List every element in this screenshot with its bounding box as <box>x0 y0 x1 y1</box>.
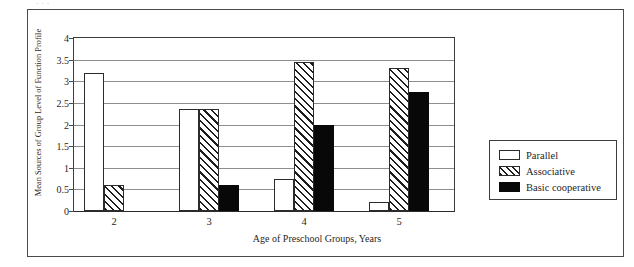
bar-5-basic-cooperative <box>409 92 429 211</box>
figure-container: · · · Mean Sources of Group Level of Fun… <box>0 0 634 267</box>
legend-swatch-parallel-icon <box>499 150 520 160</box>
legend-swatch-basic-cooperative-icon <box>499 182 520 192</box>
y-tick-label: 2.5 <box>57 97 70 108</box>
y-tick-label: 2 <box>64 119 69 130</box>
gridline <box>74 60 454 61</box>
chart-legend: Parallel Associative Basic cooperative <box>489 140 617 200</box>
plot-area: 00.511.522.533.542345 <box>73 37 455 212</box>
legend-swatch-associative-icon <box>499 166 520 176</box>
bar-2-associative <box>104 185 124 211</box>
bar-4-parallel <box>274 179 294 211</box>
bar-4-associative <box>294 62 314 211</box>
x-tick-label: 2 <box>111 216 116 227</box>
y-tick-mark <box>69 38 74 39</box>
y-axis-title: Mean Sources of Group Level of Function … <box>34 13 43 213</box>
y-tick-mark <box>69 146 74 147</box>
y-tick-mark <box>69 60 74 61</box>
x-tick-label: 4 <box>301 216 306 227</box>
x-tick-label: 5 <box>396 216 401 227</box>
legend-label-basic-cooperative: Basic cooperative <box>526 182 601 193</box>
y-tick-label: 1 <box>64 162 69 173</box>
y-tick-label: 3 <box>64 76 69 87</box>
y-tick-mark <box>69 103 74 104</box>
bar-3-parallel <box>179 109 199 211</box>
y-tick-mark <box>69 168 74 169</box>
bar-5-associative <box>389 68 409 211</box>
y-tick-mark <box>69 81 74 82</box>
y-tick-label: 4 <box>64 33 69 44</box>
cropped-text-remnant: · · · <box>36 0 186 6</box>
y-tick-mark <box>69 211 74 212</box>
legend-item-basic-cooperative: Basic cooperative <box>499 179 616 195</box>
y-tick-label: 1.5 <box>57 141 70 152</box>
bar-3-basic-cooperative <box>219 185 239 211</box>
x-axis-title: Age of Preschool Groups, Years <box>0 233 634 244</box>
bar-5-parallel <box>369 202 389 211</box>
legend-label-parallel: Parallel <box>526 150 558 161</box>
bar-2-parallel <box>84 73 104 211</box>
legend-item-parallel: Parallel <box>499 147 616 163</box>
y-tick-label: 0 <box>64 206 69 217</box>
legend-item-associative: Associative <box>499 163 616 179</box>
x-tick-label: 3 <box>206 216 211 227</box>
y-tick-label: 3.5 <box>57 54 70 65</box>
y-tick-label: 0.5 <box>57 184 70 195</box>
bar-3-associative <box>199 109 219 211</box>
y-tick-mark <box>69 189 74 190</box>
legend-label-associative: Associative <box>526 166 575 177</box>
bar-4-basic-cooperative <box>314 125 334 212</box>
y-tick-mark <box>69 125 74 126</box>
